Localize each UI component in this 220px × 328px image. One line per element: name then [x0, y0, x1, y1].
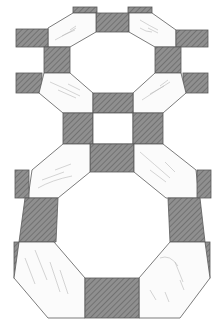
light-tile	[134, 144, 199, 198]
dark-tile	[155, 47, 181, 73]
dark-tile	[128, 7, 152, 13]
dark-tile	[16, 29, 48, 47]
dark-tile	[63, 113, 93, 144]
dark-tile	[96, 13, 129, 32]
dark-tile	[15, 170, 29, 198]
dark-tile	[90, 144, 134, 172]
white-center-tile	[93, 113, 133, 144]
dark-tile	[73, 7, 97, 13]
light-tile	[14, 242, 85, 318]
light-tile	[48, 13, 96, 47]
dark-tile	[176, 30, 208, 47]
light-tile	[133, 73, 186, 113]
dark-tile	[183, 73, 208, 93]
dark-tile	[133, 113, 163, 144]
tile-pattern-figure-eight	[0, 0, 220, 328]
light-tile	[139, 242, 210, 318]
dark-tile	[16, 73, 42, 93]
dark-tile	[19, 198, 58, 242]
dark-tile	[168, 198, 205, 242]
dark-tile	[93, 93, 133, 113]
dark-tile	[85, 278, 139, 318]
dark-tile	[44, 47, 70, 73]
light-tile	[28, 144, 90, 198]
dark-tile	[197, 170, 211, 198]
light-tile	[39, 73, 93, 113]
